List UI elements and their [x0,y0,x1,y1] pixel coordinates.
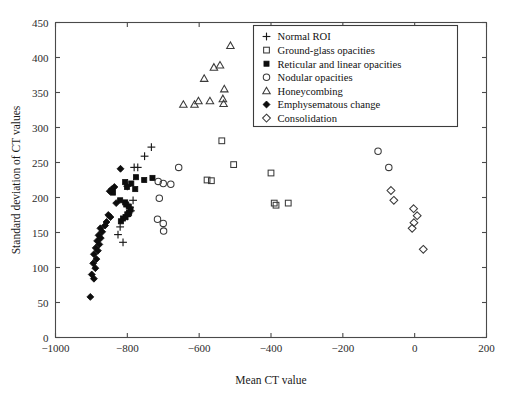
y-tick-labels: 050100150200250300350400450 [32,17,49,344]
data-point [219,138,225,144]
data-point [410,205,418,213]
data-point [129,196,137,204]
data-point [221,85,228,92]
data-point [285,200,291,206]
data-point [227,42,234,49]
y-tick-label: 100 [32,262,49,274]
x-tick-label: −800 [116,342,139,354]
x-tick-label: −600 [188,342,211,354]
legend-label: Consolidation [278,113,338,124]
data-point [133,175,138,180]
y-tick-label: 300 [32,122,49,134]
y-tick-label: 400 [32,52,49,64]
series-nodular-opacities [154,148,392,234]
legend-marker-square-filled [264,61,269,66]
legend-label: Emphysematous change [278,99,381,110]
y-tick-label: 450 [32,17,49,29]
x-axis-title: Mean CT value [235,374,306,386]
data-point [124,184,129,189]
data-point [175,164,181,170]
data-point [390,196,398,204]
x-tick-label: −200 [331,342,354,354]
data-point [200,75,207,82]
y-tick-label: 50 [38,297,50,309]
legend-label: Normal ROI [278,31,332,42]
chart-canvas: −1000−800−600−400−2000200 05010015020025… [0,0,508,400]
data-point [123,180,128,185]
data-point [273,202,279,208]
data-point [160,220,166,226]
legend-label: Honeycombing [278,86,344,97]
data-point [180,101,187,108]
data-point [117,165,124,172]
series-normal-roi [114,143,155,246]
y-tick-label: 0 [43,332,49,344]
y-tick-label: 150 [32,227,49,239]
data-point [154,216,160,222]
data-point [87,293,94,300]
data-point [387,187,395,195]
data-point [118,219,123,224]
x-tick-label: 200 [478,342,495,354]
x-tick-label: −400 [260,342,283,354]
data-point [142,177,147,182]
y-tick-label: 350 [32,87,49,99]
data-point [268,170,274,176]
data-point [271,200,277,206]
x-tick-labels: −1000−800−600−400−2000200 [41,342,495,354]
legend-label: Reticular and linear opacities [278,59,402,70]
data-point [160,228,166,234]
chart-legend: Normal ROIGround-glass opacitiesReticula… [254,26,458,127]
y-tick-label: 200 [32,192,49,204]
data-point [216,62,223,69]
series-honeycombing [180,42,235,107]
data-point [156,195,162,201]
data-point [419,245,427,253]
legend-label: Nodular opacities [278,72,353,83]
data-point [141,152,149,160]
y-axis-title: Standard deviation of CT values [10,105,22,254]
data-point [386,164,392,170]
data-point [114,231,122,239]
data-point [133,187,138,192]
legend-label: Ground-glass opacities [278,45,375,56]
data-point [119,238,127,246]
series-consolidation [387,187,427,254]
data-point [231,162,237,168]
data-point [413,212,421,220]
x-tick-label: 0 [412,342,418,354]
data-point [206,97,213,104]
data-point [150,175,155,180]
y-tick-label: 250 [32,157,49,169]
scatter-plot-figure: −1000−800−600−400−2000200 05010015020025… [0,0,508,400]
data-point [147,143,155,151]
data-point [134,164,142,172]
series-ground-glass-opacities [204,138,291,208]
data-point [375,148,381,154]
data-point [168,181,174,187]
